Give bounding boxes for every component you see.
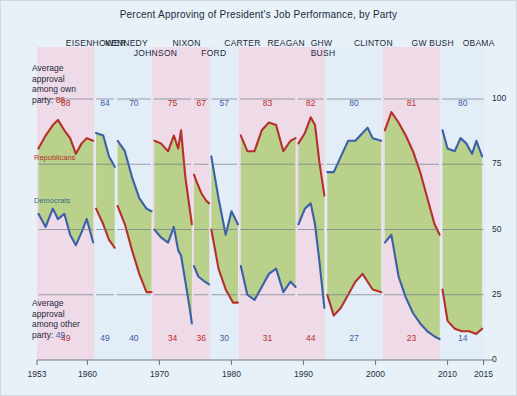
- other-party-value-reagan: 31: [263, 333, 272, 343]
- other-party-note-line-1: approval: [32, 309, 65, 320]
- own-party-value-carter: 57: [220, 98, 229, 108]
- own-party-note-line-0: Average: [32, 63, 64, 74]
- other-party-value-obama: 14: [458, 333, 467, 343]
- axes: [37, 360, 493, 365]
- own-party-note-line-1: approval: [32, 74, 65, 85]
- other-party-value-nixon: 34: [168, 333, 177, 343]
- other-party-value-kennedy: 49: [100, 333, 109, 343]
- own-party-note-line-3: party: 88: [32, 95, 65, 106]
- x-axis-tick-2015: 2015: [474, 369, 493, 379]
- own-party-note-line-2: among own: [32, 84, 76, 95]
- other-party-note-line-0: Average: [32, 298, 64, 309]
- own-party-value-clinton: 80: [349, 98, 358, 108]
- y-axis-tick-75: 75: [492, 158, 501, 168]
- own-party-value-obama: 80: [458, 98, 467, 108]
- other-party-value-clinton: 27: [349, 333, 358, 343]
- own-party-value-johnson: 70: [129, 98, 138, 108]
- x-axis-tick-1980: 1980: [222, 369, 241, 379]
- own-party-note-value: 88: [56, 95, 65, 105]
- other-party-value-gw-bush: 23: [407, 333, 416, 343]
- other-party-note-line-3: party: 49: [32, 330, 65, 341]
- other-party-note-line-2: among other: [32, 319, 80, 330]
- other-party-value-carter: 30: [220, 333, 229, 343]
- gap-fill-obama: [443, 130, 483, 334]
- chart-canvas: [0, 0, 517, 396]
- x-axis-tick-1970: 1970: [150, 369, 169, 379]
- page-title: Percent Approving of President's Job Per…: [0, 9, 517, 20]
- other-party-value-ghw-bush: 44: [306, 333, 315, 343]
- own-party-value-kennedy: 84: [100, 98, 109, 108]
- y-axis-tick-25: 25: [492, 289, 501, 299]
- other-party-value-johnson: 40: [129, 333, 138, 343]
- own-party-value-gw-bush: 81: [407, 98, 416, 108]
- own-party-value-reagan: 83: [263, 98, 272, 108]
- own-party-value-ghw-bush: 82: [306, 98, 315, 108]
- x-axis-tick-2000: 2000: [366, 369, 385, 379]
- y-axis-tick-50: 50: [492, 224, 501, 234]
- x-axis-tick-2010: 2010: [438, 369, 457, 379]
- x-axis-tick-1960: 1960: [78, 369, 97, 379]
- x-axis-tick-1953: 1953: [28, 369, 47, 379]
- own-party-value-ford: 67: [196, 98, 205, 108]
- other-party-note-value: 49: [56, 330, 65, 340]
- democrats-series-label: Democrats: [34, 196, 70, 205]
- y-axis-tick-0: 0: [492, 354, 497, 364]
- chart-root: Percent Approving of President's Job Per…: [0, 0, 517, 396]
- own-party-value-nixon: 75: [168, 98, 177, 108]
- other-party-value-ford: 36: [196, 333, 205, 343]
- x-axis-tick-1990: 1990: [294, 369, 313, 379]
- republicans-series-label: Republicans: [34, 153, 75, 162]
- y-axis-tick-100: 100: [492, 93, 506, 103]
